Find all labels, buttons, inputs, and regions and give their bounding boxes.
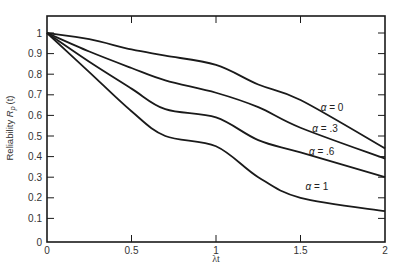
reliability-chart: 00.10.20.30.40.50.60.70.80.91 00.511.52 …	[0, 0, 400, 276]
x-tick-label: 2	[382, 245, 388, 256]
curve-series-1	[47, 33, 385, 159]
x-tick-label: 1.5	[294, 245, 308, 256]
y-tick-labels: 00.10.20.30.40.50.60.70.80.91	[28, 28, 42, 248]
y-tick-label: 0.1	[28, 213, 42, 224]
curve-label-3: α = 1	[306, 181, 329, 192]
y-tick-label: 0.7	[28, 89, 42, 100]
y-tick-label: 0.8	[28, 69, 42, 80]
curve-label-2: α = .6	[309, 146, 335, 157]
y-tick-label: 0.4	[28, 151, 42, 162]
y-axis-title-arg: (t)	[4, 95, 15, 104]
y-tick-label: 0.2	[28, 192, 42, 203]
x-axis-title: λt	[212, 253, 220, 264]
y-tick-label: 0.5	[28, 131, 42, 142]
y-tick-label: 0.9	[28, 48, 42, 59]
y-axis-title: Reliability Rp(t)	[4, 95, 17, 160]
x-tick-label: 0.5	[125, 245, 139, 256]
y-tick-label: 0.6	[28, 110, 42, 121]
y-axis-title-sub: p	[9, 106, 17, 111]
curve-label-1: α = .3	[312, 123, 338, 134]
y-axis-title-main: Reliability	[4, 117, 15, 160]
y-tick-label: 0.3	[28, 172, 42, 183]
x-tick-label: 0	[44, 245, 50, 256]
curve-label-0: α = 0	[321, 102, 344, 113]
y-tick-label: 0	[36, 237, 42, 248]
curve-labels: α = 0α = .3α = .6α = 1	[306, 102, 344, 191]
y-tick-label: 1	[36, 28, 42, 39]
